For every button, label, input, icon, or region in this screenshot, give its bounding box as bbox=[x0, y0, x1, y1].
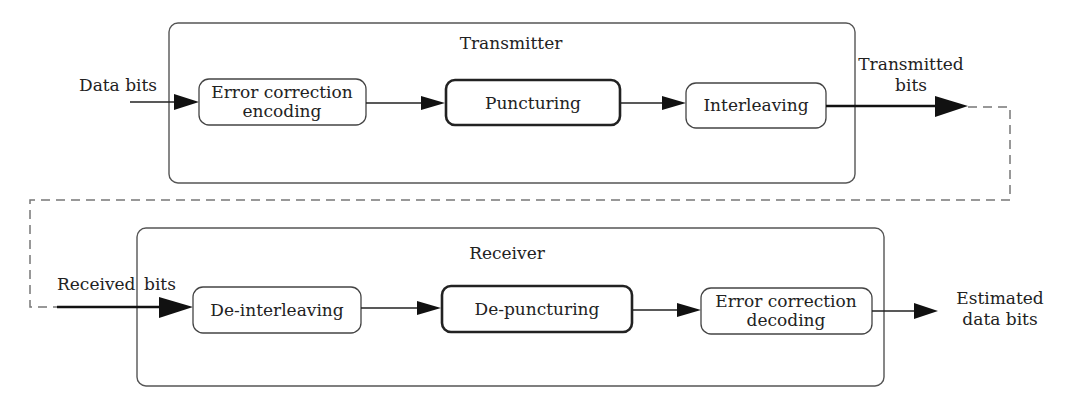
arrow-head-icon bbox=[421, 96, 445, 110]
de-interleaving-label: De-interleaving bbox=[210, 300, 343, 320]
arrow-head-icon bbox=[677, 303, 701, 317]
arrow-head-icon bbox=[174, 94, 199, 110]
encoding-label-line2: encoding bbox=[243, 101, 322, 121]
channel-dashed-path bbox=[30, 107, 1010, 307]
error-correction-decoding-block: Error correction decoding bbox=[701, 288, 872, 334]
arrow-head-icon bbox=[159, 297, 193, 318]
arrow-head-icon bbox=[914, 303, 938, 319]
puncturing-system-diagram: Transmitter Data bits Error correction e… bbox=[0, 0, 1076, 412]
receiver-title: Receiver bbox=[469, 243, 546, 263]
estimated-bits-label-line1: Estimated bbox=[956, 288, 1044, 308]
received-bits-label-word1: Received bbox=[57, 274, 136, 294]
estimated-bits-label-line2: data bits bbox=[962, 309, 1037, 329]
encoding-label-line1: Error correction bbox=[211, 82, 353, 102]
interleaving-label: Interleaving bbox=[703, 95, 808, 115]
de-puncturing-block: De-puncturing bbox=[442, 286, 632, 332]
puncturing-label: Puncturing bbox=[485, 93, 581, 113]
transmitter-title: Transmitter bbox=[460, 33, 564, 53]
received-bits-label-word2: bits bbox=[144, 274, 176, 294]
error-correction-encoding-block: Error correction encoding bbox=[199, 79, 366, 125]
decoding-label-line1: Error correction bbox=[715, 291, 857, 311]
transmitted-bits-label-line2: bits bbox=[895, 75, 927, 95]
arrow-head-icon bbox=[417, 301, 441, 315]
de-puncturing-label: De-puncturing bbox=[475, 299, 600, 319]
arrow-head-icon bbox=[662, 96, 686, 110]
data-bits-label: Data bits bbox=[79, 75, 157, 95]
transmitted-bits-label-line1: Transmitted bbox=[858, 54, 964, 74]
arrow-head-icon bbox=[935, 96, 968, 117]
de-interleaving-block: De-interleaving bbox=[193, 287, 361, 333]
puncturing-block: Puncturing bbox=[446, 80, 620, 125]
decoding-label-line2: decoding bbox=[747, 310, 826, 330]
interleaving-block: Interleaving bbox=[686, 83, 826, 128]
